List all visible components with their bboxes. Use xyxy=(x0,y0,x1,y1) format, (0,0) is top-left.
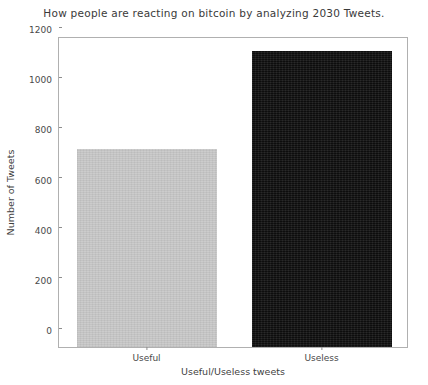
figure-canvas: How people are reacting on bitcoin by an… xyxy=(0,0,428,385)
x-axis-tick-mark xyxy=(146,347,147,350)
y-axis-tick-label: 1000 xyxy=(29,76,59,85)
x-axis-tick: Useless xyxy=(304,347,338,363)
y-axis-tick-label: 1200 xyxy=(29,26,59,35)
y-axis-tick: 1000 xyxy=(29,68,59,87)
x-axis-tick-label: Useless xyxy=(304,353,338,363)
y-axis-tick: 200 xyxy=(35,268,59,287)
y-axis-tick-label: 600 xyxy=(35,176,59,185)
y-axis-tick-label: 200 xyxy=(35,276,59,285)
y-axis-tick-label: 800 xyxy=(35,126,59,135)
bar-useful[interactable] xyxy=(77,149,217,347)
y-axis-label: Number of Tweets xyxy=(4,37,18,348)
bar-useless[interactable] xyxy=(252,51,392,347)
y-axis-tick: 600 xyxy=(35,168,59,187)
x-axis-tick: Useful xyxy=(132,347,160,363)
x-axis-label: Useful/Useless tweets xyxy=(58,366,408,378)
plot-area: 020040060080010001200 UsefulUseless xyxy=(58,37,408,348)
y-axis-tick: 800 xyxy=(35,118,59,137)
y-axis-tick-mark xyxy=(59,27,62,28)
y-axis-tick: 400 xyxy=(35,218,59,237)
y-axis-tick: 1200 xyxy=(29,18,59,37)
chart-title: How people are reacting on bitcoin by an… xyxy=(0,7,428,20)
y-axis-tick-label: 0 xyxy=(46,327,59,336)
bars-layer xyxy=(59,38,407,347)
y-axis-tick-label: 400 xyxy=(35,226,59,235)
x-axis-tick-label: Useful xyxy=(132,353,160,363)
y-axis-tick: 0 xyxy=(46,319,59,338)
x-axis-tick-mark xyxy=(321,347,322,350)
